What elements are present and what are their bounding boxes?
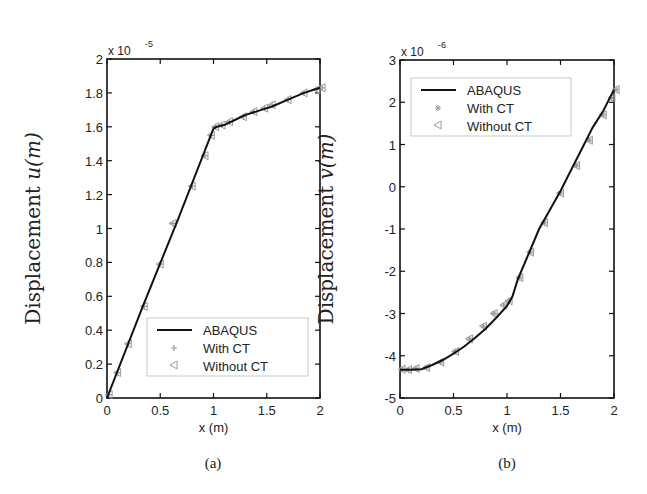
x-axis-label: x (m) <box>199 420 229 435</box>
y-tick-label: -4 <box>384 349 396 364</box>
y-tick-label: 1 <box>389 138 396 153</box>
panel-caption: (b) <box>498 455 516 472</box>
x-tick-label: 1 <box>503 403 510 418</box>
x-axis-label: x (m) <box>492 420 522 435</box>
legend-label-without-ct: Without CT <box>203 359 268 374</box>
figure: 00.511.5200.20.40.60.811.21.41.61.82x 10… <box>0 0 647 494</box>
y-tick-label: 0 <box>96 391 103 406</box>
x-tick-label: 1 <box>210 403 217 418</box>
x-tick-label: 1.5 <box>258 403 276 418</box>
y-multiplier-exponent: -6 <box>438 40 446 50</box>
y-axis-label-variable: u(m) <box>21 132 45 179</box>
y-tick-label: 1.8 <box>85 86 103 101</box>
legend-label-abaqus: ABAQUS <box>203 323 258 338</box>
x-tick-label: 0.5 <box>444 403 462 418</box>
y-axis-label-text: Displacement <box>21 180 45 325</box>
y-tick-label: 0.8 <box>85 255 103 270</box>
x-tick-label: 2 <box>316 403 323 418</box>
panel-b-chart: 00.511.52-5-4-3-2-10123x 10-6x (m)Displa… <box>314 40 619 472</box>
legend-label-without-ct: Without CT <box>467 119 532 134</box>
legend-label-abaqus: ABAQUS <box>467 83 522 98</box>
y-multiplier: x 10 <box>401 45 424 59</box>
legend: ABAQUSWith CTWithout CT <box>411 78 571 136</box>
y-axis-label: Displacement v(m) <box>314 134 338 325</box>
y-tick-label: 1.2 <box>85 188 103 203</box>
y-tick-label: -5 <box>384 391 396 406</box>
y-tick-label: 0.6 <box>85 289 103 304</box>
x-tick-label: 0 <box>396 403 403 418</box>
star-marker <box>435 105 441 111</box>
y-tick-label: 1.6 <box>85 120 103 135</box>
x-tick-label: 0 <box>103 403 110 418</box>
y-tick-label: 0.2 <box>85 357 103 372</box>
y-tick-label: 2 <box>96 52 103 67</box>
y-multiplier: x 10 <box>108 44 131 58</box>
legend-label-with-ct: With CT <box>203 341 250 356</box>
y-axis-label-text: Displacement <box>314 179 338 324</box>
x-tick-label: 2 <box>610 403 617 418</box>
y-tick-label: -2 <box>384 264 396 279</box>
panel-a-chart: 00.511.5200.20.40.60.811.21.41.61.82x 10… <box>21 39 325 472</box>
y-tick-label: 2 <box>389 95 396 110</box>
y-axis-label-variable: v(m) <box>314 134 338 180</box>
y-tick-label: 1.4 <box>85 154 103 169</box>
y-tick-label: 0 <box>389 180 396 195</box>
y-tick-label: 3 <box>389 53 396 68</box>
legend-label-with-ct: With CT <box>467 101 514 116</box>
x-tick-label: 0.5 <box>151 403 169 418</box>
y-multiplier-exponent: -5 <box>145 39 153 49</box>
y-tick-label: 1 <box>96 222 103 237</box>
y-tick-label: 0.4 <box>85 323 103 338</box>
x-tick-label: 1.5 <box>551 403 569 418</box>
legend: ABAQUSWith CTWithout CT <box>147 318 308 376</box>
y-tick-label: -3 <box>384 307 396 322</box>
y-tick-label: -1 <box>384 222 396 237</box>
panel-caption: (a) <box>205 455 222 472</box>
y-axis-label: Displacement u(m) <box>21 132 45 324</box>
